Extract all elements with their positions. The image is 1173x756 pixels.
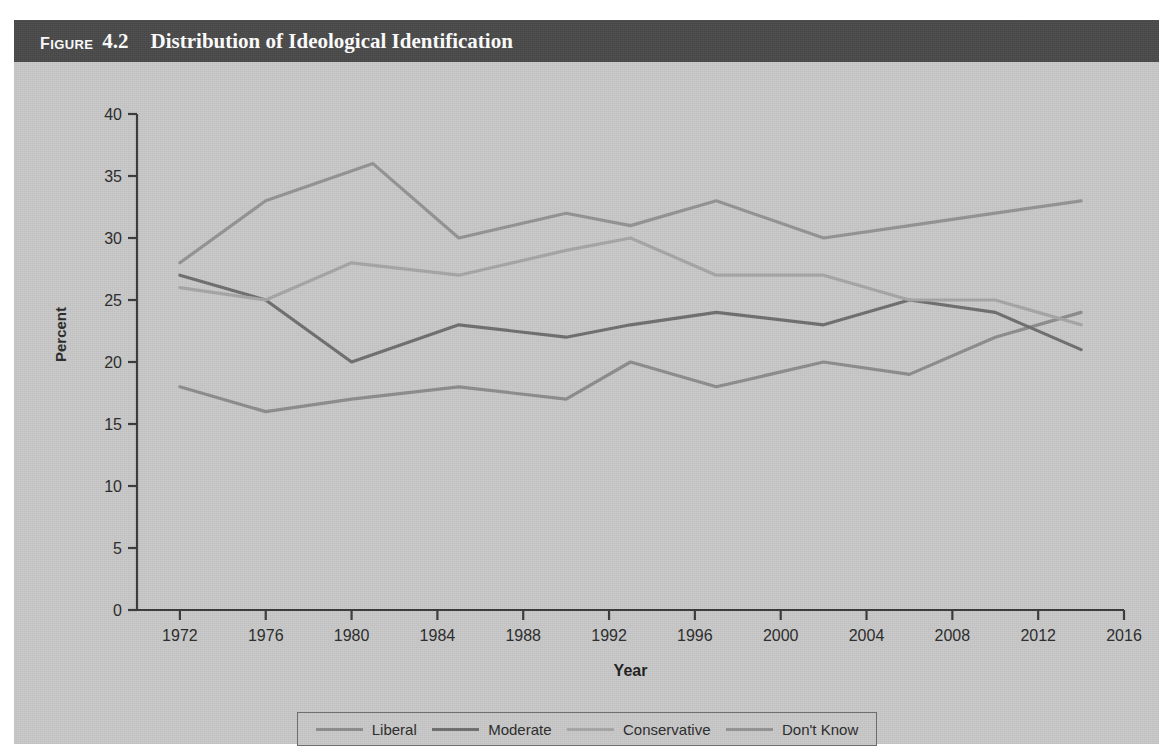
legend-item-conservative[interactable]: Conservative	[567, 721, 711, 738]
figure-header-bar: Figure 4.2 Distribution of Ideological I…	[14, 20, 1159, 62]
x-tick-label: 1988	[505, 627, 541, 644]
series-line-moderate	[180, 275, 1081, 362]
x-tick-label: 2004	[849, 627, 885, 644]
legend-swatch-icon	[567, 728, 614, 731]
series-line-don-t-know	[180, 164, 1081, 263]
y-tick-label: 15	[104, 416, 122, 433]
legend-item-liberal[interactable]: Liberal	[316, 721, 417, 738]
series-line-liberal	[180, 312, 1081, 411]
y-tick-label: 30	[104, 230, 122, 247]
legend-item-don-t-know[interactable]: Don't Know	[726, 721, 858, 738]
y-tick-label: 20	[104, 354, 122, 371]
line-chart: 0510152025303540197219761980198419881992…	[14, 62, 1159, 744]
x-tick-label: 1976	[248, 627, 284, 644]
legend-label: Conservative	[623, 721, 711, 738]
y-tick-label: 5	[113, 540, 122, 557]
legend-item-moderate[interactable]: Moderate	[432, 721, 551, 738]
chart-plot-area: Percent 05101520253035401972197619801984…	[14, 62, 1159, 744]
x-tick-label: 2008	[935, 627, 971, 644]
y-tick-label: 0	[113, 602, 122, 619]
y-tick-label: 40	[104, 106, 122, 123]
x-tick-label: 2000	[763, 627, 799, 644]
legend-label: Don't Know	[782, 721, 858, 738]
figure-title: Distribution of Ideological Identificati…	[151, 29, 513, 54]
x-tick-label: 2016	[1106, 627, 1142, 644]
figure-number: 4.2	[102, 29, 128, 54]
x-tick-label: 1980	[334, 627, 370, 644]
legend-label: Liberal	[372, 721, 417, 738]
legend-swatch-icon	[726, 728, 773, 731]
y-tick-label: 10	[104, 478, 122, 495]
x-tick-label: 1972	[162, 627, 198, 644]
chart-legend: LiberalModerateConservativeDon't Know	[297, 712, 877, 746]
y-tick-label: 25	[104, 292, 122, 309]
y-tick-label: 35	[104, 168, 122, 185]
x-axis-label: Year	[614, 662, 648, 679]
legend-label: Moderate	[488, 721, 551, 738]
x-tick-label: 1984	[420, 627, 456, 644]
legend-swatch-icon	[432, 728, 479, 731]
x-tick-label: 1996	[677, 627, 713, 644]
x-tick-label: 2012	[1020, 627, 1056, 644]
legend-swatch-icon	[316, 728, 363, 731]
x-tick-label: 1992	[591, 627, 627, 644]
series-line-conservative	[180, 238, 1081, 325]
figure-label: Figure	[40, 28, 93, 55]
figure-panel: Figure 4.2 Distribution of Ideological I…	[14, 20, 1159, 744]
